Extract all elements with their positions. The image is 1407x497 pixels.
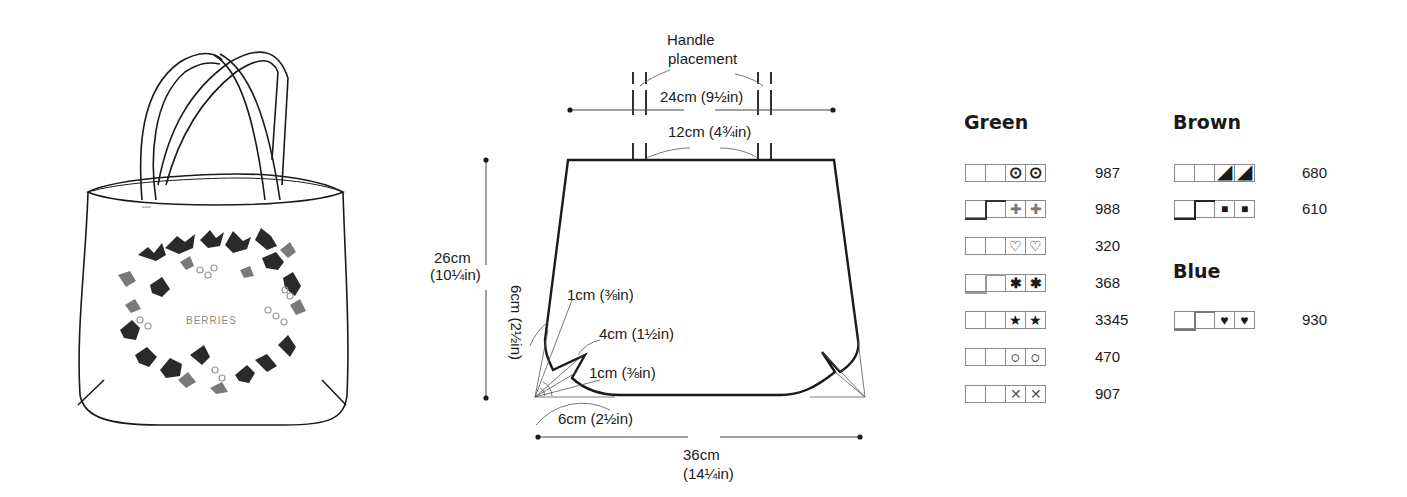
- thread-code: 907: [1095, 385, 1120, 402]
- berries-wreath-motif: [118, 228, 306, 394]
- handle-outer-width-label: 24cm (9½in): [660, 88, 743, 105]
- asterisk-icon: ✱: [1005, 274, 1026, 292]
- thread-code: 470: [1095, 348, 1120, 365]
- blank-cell: [965, 348, 986, 366]
- dotted-circle-icon: ⊙: [1025, 164, 1046, 182]
- half-triangle-icon: ◢: [1234, 164, 1255, 182]
- filled-square-icon: ■: [1234, 200, 1255, 218]
- thread-code: 680: [1302, 164, 1327, 181]
- svg-text:▫▫▫▫: ▫▫▫▫: [263, 201, 272, 207]
- handle-inner-width-label: 12cm (4¾in): [668, 123, 751, 140]
- svg-text:▫▫▫▫: ▫▫▫▫: [142, 204, 151, 210]
- thread-code: 320: [1095, 237, 1120, 254]
- thread-code: 930: [1302, 311, 1327, 328]
- outlined-cross-icon: ✚: [1025, 200, 1046, 218]
- width-in-label: (14¼in): [683, 465, 734, 482]
- height-in-label: (10¼in): [430, 266, 481, 283]
- filled-heart-icon: ♥: [1234, 311, 1255, 329]
- asterisk-icon: ✱: [1025, 274, 1046, 292]
- dart-tip-top-label: 1cm (⅜in): [567, 286, 634, 303]
- blank-cell: [985, 311, 1006, 329]
- blank-cell: [1174, 311, 1195, 329]
- blank-cell: [1174, 200, 1195, 218]
- thread-code: 3345: [1095, 311, 1128, 328]
- blank-cell: [965, 311, 986, 329]
- x-mark-icon: ✕: [1025, 385, 1046, 403]
- outlined-cross-icon: ✚: [1005, 200, 1026, 218]
- height-cm-label: 26cm: [434, 249, 471, 266]
- corner-bottom-label: 6cm (2½in): [558, 410, 633, 427]
- blank-cell: [985, 164, 1006, 182]
- blank-cell: [985, 237, 1006, 255]
- corner-side-label: 6cm (2½in): [508, 285, 525, 360]
- dart-length-label: 4cm (1½in): [599, 325, 674, 342]
- blank-cell: [985, 200, 1006, 218]
- handle-label-line1: Handle: [667, 31, 715, 48]
- tote-bag-illustration: ▫▫▫▫ ▫▫▫▫: [0, 0, 1407, 497]
- blank-cell: [985, 385, 1006, 403]
- thread-code: 988: [1095, 200, 1120, 217]
- bag-motif-text: BERRIES: [186, 315, 237, 326]
- width-cm-label: 36cm: [683, 446, 720, 463]
- filled-star-icon: ★: [1005, 311, 1026, 329]
- key-title-green: Green: [964, 111, 1028, 133]
- blank-cell: [1194, 164, 1215, 182]
- key-title-blue: Blue: [1173, 260, 1220, 282]
- blank-cell: [985, 348, 1006, 366]
- blank-cell: [965, 164, 986, 182]
- blank-cell: [1194, 311, 1215, 329]
- blank-cell: [965, 385, 986, 403]
- half-triangle-icon: ◢: [1214, 164, 1235, 182]
- outlined-heart-icon: ♡: [1005, 237, 1026, 255]
- thread-code: 368: [1095, 274, 1120, 291]
- blank-cell: [965, 200, 986, 218]
- blank-cell: [965, 274, 986, 292]
- outlined-heart-icon: ♡: [1025, 237, 1046, 255]
- thread-code: 987: [1095, 164, 1120, 181]
- filled-square-icon: ■: [1214, 200, 1235, 218]
- blank-cell: [985, 274, 1006, 292]
- open-circle-icon: ○: [1005, 348, 1026, 366]
- dart-tip-bottom-label: 1cm (⅜in): [589, 364, 656, 381]
- filled-star-icon: ★: [1025, 311, 1046, 329]
- handle-label-line2: placement: [668, 50, 738, 67]
- blank-cell: [965, 237, 986, 255]
- blank-cell: [1194, 200, 1215, 218]
- thread-code: 610: [1302, 200, 1327, 217]
- x-mark-icon: ✕: [1005, 385, 1026, 403]
- dotted-circle-icon: ⊙: [1005, 164, 1026, 182]
- filled-heart-icon: ♥: [1214, 311, 1235, 329]
- key-title-brown: Brown: [1173, 111, 1241, 133]
- open-circle-icon: ○: [1025, 348, 1046, 366]
- blank-cell: [1174, 164, 1195, 182]
